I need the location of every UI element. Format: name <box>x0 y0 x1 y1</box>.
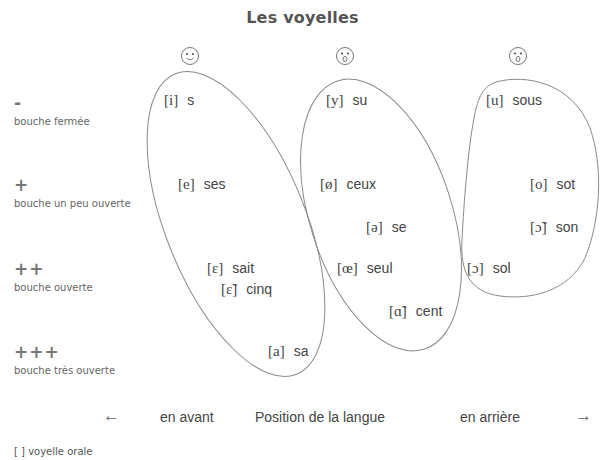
arrow-left-icon: ← <box>103 406 120 426</box>
example-word: sot <box>557 176 576 192</box>
example-word: seul <box>367 260 393 276</box>
row-label-open: ++ bouche ouverte <box>14 262 93 293</box>
vowel-oe: [œ]seul <box>337 260 393 277</box>
vowel-nasal-o: [ɔ̃]son <box>530 219 578 236</box>
example-word: su <box>353 92 368 108</box>
ipa-symbol: [ɛ̃] <box>221 281 237 297</box>
vowel-u: [u]sous <box>486 92 542 109</box>
vowel-o-slash: [ø]ceux <box>320 176 376 193</box>
example-word: cinq <box>246 281 272 297</box>
row-label-slightly-open: + bouche un peu ouverte <box>14 178 131 209</box>
ipa-symbol: [y] <box>326 92 344 108</box>
openness-symbol: - <box>14 96 90 112</box>
openness-symbol: +++ <box>14 345 115 361</box>
row-label-very-open: +++ bouche très ouverte <box>14 345 115 376</box>
rounded-mouth-face-icon <box>335 46 355 66</box>
vowel-nasal-a: [ɑ̃]cent <box>389 303 442 320</box>
vowel-open-e: [ɛ]sait <box>207 260 254 277</box>
vowel-a: [a]sa <box>268 343 308 360</box>
ipa-symbol: [i] <box>164 92 178 108</box>
vowel-schwa: [ə]se <box>366 219 406 236</box>
ipa-symbol: [a] <box>268 343 285 359</box>
ipa-symbol: [ɛ] <box>207 260 223 276</box>
openness-label: bouche fermée <box>14 116 90 127</box>
example-word: se <box>392 219 407 235</box>
legend: [ ] voyelle orale <box>14 446 92 457</box>
example-word: sous <box>513 92 543 108</box>
ipa-symbol: [ɔ̃] <box>530 219 547 235</box>
openness-label: bouche très ouverte <box>14 365 115 376</box>
ipa-symbol: [ø] <box>320 176 338 192</box>
rounded-mouth-face-icon <box>508 46 528 66</box>
row-label-closed: - bouche fermée <box>14 96 90 127</box>
ipa-symbol: [ɑ̃] <box>389 303 407 319</box>
example-word: sol <box>493 260 511 276</box>
vowel-group-outlines <box>0 0 605 460</box>
ipa-symbol: [œ] <box>337 260 358 276</box>
front-rounded-outline <box>270 59 492 371</box>
front-unrounded-outline <box>110 48 361 401</box>
example-word: cent <box>416 303 442 319</box>
openness-label: bouche un peu ouverte <box>14 198 131 209</box>
example-word: s <box>187 92 194 108</box>
arrow-right-icon: → <box>575 406 592 426</box>
example-word: sa <box>294 343 309 359</box>
ipa-symbol: [ɔ] <box>467 260 484 276</box>
vowel-nasal-e: [ɛ̃]cinq <box>221 281 272 298</box>
axis-title: Position de la langue <box>255 409 385 425</box>
openness-symbol: ++ <box>14 262 93 278</box>
vowel-i: [i]s <box>164 92 194 109</box>
vowel-y: [y]su <box>326 92 367 109</box>
ipa-symbol: [e] <box>178 176 195 192</box>
axis-front-label: en avant <box>160 409 214 425</box>
vowel-open-o: [ɔ]sol <box>467 260 511 277</box>
ipa-symbol: [o] <box>530 176 548 192</box>
vowel-o: [o]sot <box>530 176 575 193</box>
example-word: son <box>556 219 579 235</box>
ipa-symbol: [u] <box>486 92 504 108</box>
smiling-face-icon <box>180 46 200 66</box>
example-word: ceux <box>347 176 377 192</box>
example-word: sait <box>232 260 254 276</box>
ipa-symbol: [ə] <box>366 219 383 235</box>
openness-symbol: + <box>14 178 131 194</box>
example-word: ses <box>204 176 226 192</box>
openness-label: bouche ouverte <box>14 282 93 293</box>
vowel-e: [e]ses <box>178 176 225 193</box>
axis-back-label: en arrière <box>460 409 520 425</box>
